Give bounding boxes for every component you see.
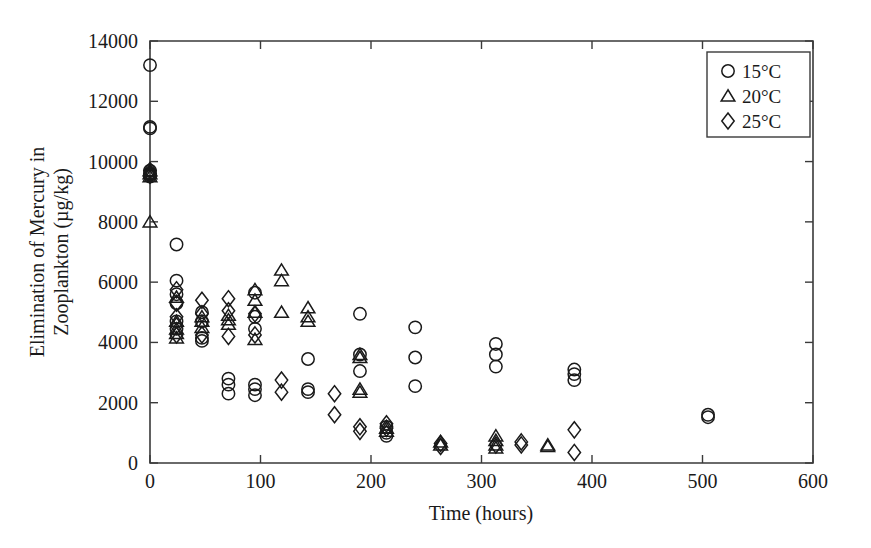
mercury-elimination-scatter-figure: 0100200300400500600 02000400060008000100… bbox=[0, 0, 871, 548]
y-tick-label: 0 bbox=[128, 452, 138, 474]
x-tick-label: 100 bbox=[246, 470, 276, 492]
y-tick-label: 14000 bbox=[88, 30, 138, 52]
y-tick-label: 12000 bbox=[88, 90, 138, 112]
y-axis-title-line1: Elimination of Mercury in bbox=[26, 147, 49, 358]
data-points-layer bbox=[143, 59, 714, 461]
data-point-diamond bbox=[568, 444, 580, 460]
x-tick-label: 500 bbox=[688, 470, 718, 492]
data-point-circle bbox=[354, 365, 366, 377]
data-point-diamond bbox=[275, 384, 287, 400]
data-point-circle bbox=[409, 351, 421, 363]
data-point-circle bbox=[354, 308, 366, 320]
chart-legend: 15°C20°C25°C bbox=[707, 52, 810, 137]
legend-label-triangle: 20°C bbox=[742, 86, 781, 107]
x-tick-label: 0 bbox=[145, 470, 155, 492]
data-point-circle bbox=[222, 387, 234, 399]
data-point-diamond bbox=[222, 328, 234, 344]
data-point-circle bbox=[170, 238, 182, 250]
x-tick-label: 300 bbox=[467, 470, 497, 492]
data-point-triangle bbox=[301, 315, 315, 326]
data-point-diamond bbox=[328, 386, 340, 402]
legend-label-circle: 15°C bbox=[742, 61, 781, 82]
data-point-circle bbox=[409, 321, 421, 333]
data-point-circle bbox=[409, 380, 421, 392]
series-diamond bbox=[144, 163, 581, 461]
y-tick-label: 2000 bbox=[98, 392, 138, 414]
data-point-diamond bbox=[354, 419, 366, 435]
data-point-diamond bbox=[568, 422, 580, 438]
y-axis-title-line2: Zooplankton (µg/kg) bbox=[50, 168, 73, 336]
x-tick-label: 600 bbox=[798, 470, 828, 492]
series-circle bbox=[144, 59, 714, 442]
data-point-diamond bbox=[275, 372, 287, 388]
x-tick-label: 200 bbox=[356, 470, 386, 492]
data-point-circle bbox=[302, 386, 314, 398]
y-tick-label: 6000 bbox=[98, 271, 138, 293]
y-tick-label: 10000 bbox=[88, 151, 138, 173]
legend-label-diamond: 25°C bbox=[742, 111, 781, 132]
data-point-circle bbox=[490, 360, 502, 372]
data-point-diamond bbox=[328, 407, 340, 423]
x-tick-label: 400 bbox=[577, 470, 607, 492]
x-axis-title: Time (hours) bbox=[429, 502, 533, 525]
data-point-triangle bbox=[275, 306, 289, 317]
y-tick-label: 8000 bbox=[98, 211, 138, 233]
plot-canvas: 0100200300400500600 02000400060008000100… bbox=[0, 0, 871, 548]
data-point-circle bbox=[302, 383, 314, 395]
y-axis-ticks: 02000400060008000100001200014000 bbox=[88, 30, 813, 474]
data-point-circle bbox=[302, 353, 314, 365]
data-point-diamond bbox=[222, 291, 234, 307]
data-point-triangle bbox=[275, 274, 289, 285]
y-tick-label: 4000 bbox=[98, 331, 138, 353]
data-point-diamond bbox=[354, 423, 366, 439]
